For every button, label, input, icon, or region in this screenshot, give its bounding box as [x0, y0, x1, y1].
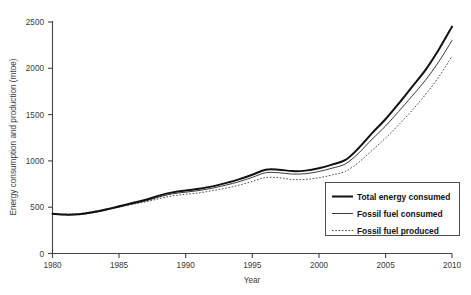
y-tick-label-500: 500 — [30, 203, 44, 212]
y-tick-label-0: 0 — [39, 250, 44, 259]
x-tick-label-1990: 1990 — [177, 261, 196, 270]
x-axis-title: Year — [244, 276, 261, 285]
legend-label-fossil-fuel-produced: Fossil fuel produced — [357, 226, 439, 236]
y-tick-label-1000: 1000 — [26, 157, 45, 166]
y-axis-title: Energy consumption and production (mtoe) — [9, 58, 18, 215]
chart-canvas: 0 500 1000 1500 2000 2500 1980 1985 1990… — [0, 0, 471, 295]
y-tick-label-2000: 2000 — [26, 64, 45, 73]
x-axis-ticks — [53, 254, 453, 259]
x-axis-tick-labels: 1980 1985 1990 1995 2000 2005 2010 — [43, 261, 461, 270]
y-tick-label-2500: 2500 — [26, 18, 45, 27]
chart-legend: Total energy consumed Fossil fuel consum… — [326, 183, 460, 236]
x-tick-label-1985: 1985 — [110, 261, 129, 270]
x-tick-label-2005: 2005 — [376, 261, 395, 270]
x-tick-label-1995: 1995 — [243, 261, 262, 270]
x-tick-label-2010: 2010 — [443, 261, 462, 270]
x-tick-label-2000: 2000 — [310, 261, 329, 270]
legend-label-fossil-fuel-consumed: Fossil fuel consumed — [357, 209, 443, 219]
x-tick-label-1980: 1980 — [43, 261, 62, 270]
y-tick-label-1500: 1500 — [26, 111, 45, 120]
legend-label-total-energy-consumed: Total energy consumed — [357, 192, 450, 202]
y-axis-tick-labels: 0 500 1000 1500 2000 2500 — [26, 18, 45, 259]
energy-line-chart: 0 500 1000 1500 2000 2500 1980 1985 1990… — [0, 0, 471, 295]
y-axis-ticks — [48, 22, 53, 254]
